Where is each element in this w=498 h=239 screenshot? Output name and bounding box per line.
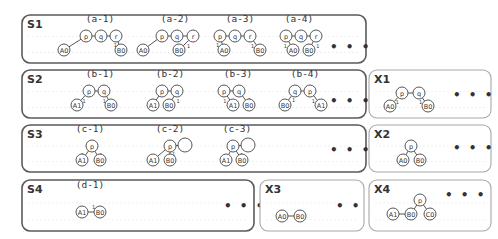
node-label: q [99, 33, 103, 41]
node-b0: B0 [303, 44, 315, 56]
node-p: p [304, 85, 316, 97]
node-label: A0 [386, 103, 395, 111]
graph-caption: (b-4) [291, 68, 320, 79]
node-a1: A1 [76, 154, 88, 166]
graph-caption: (b-1) [86, 68, 115, 79]
graph-caption: (a-1) [86, 13, 115, 24]
ellipsis-icon: • • • [330, 40, 371, 54]
node-a1: A1 [315, 99, 327, 111]
node-label: q [102, 88, 106, 96]
graph-caption: (c-2) [156, 123, 185, 134]
node-q: q [233, 85, 245, 97]
panel-label: X1 [374, 73, 390, 86]
node-p: p [214, 30, 226, 42]
node-b0: B0 [422, 100, 434, 112]
node-q: q [171, 30, 183, 42]
ellipsis-icon: • • • [330, 94, 371, 108]
node-label: r [192, 33, 195, 41]
node-a0: A0 [276, 210, 288, 222]
graph-caption: (d-1) [76, 179, 105, 190]
node-b0: B0 [236, 154, 248, 166]
node-b0: B0 [414, 154, 426, 166]
node-label: p [84, 33, 88, 41]
node-q: q [413, 87, 425, 99]
edge-weight-label: 1 [187, 43, 190, 49]
node-label: q [299, 33, 303, 41]
node-label: A0 [60, 47, 69, 55]
ellipsis-icon: • • • [330, 143, 371, 157]
node-label: B0 [96, 209, 105, 217]
node-label: B0 [107, 102, 116, 110]
node-q: q [229, 30, 241, 42]
node-q: q [98, 85, 110, 97]
node-b0: B0 [163, 99, 175, 111]
node-p: p [156, 85, 168, 97]
node-p: p [227, 140, 239, 152]
node-label: A1 [78, 157, 87, 165]
panel-label: X4 [374, 183, 390, 196]
node-label: B0 [117, 47, 126, 55]
node-a1: A1 [71, 99, 83, 111]
node-label: B0 [238, 157, 247, 165]
node-b0: B0 [115, 44, 127, 56]
panel-label: S2 [27, 73, 43, 86]
ellipsis-icon: • • • [453, 141, 494, 155]
node-label: B0 [296, 213, 305, 221]
panel-label: S3 [27, 128, 43, 141]
node-a1: A1 [147, 99, 159, 111]
node-b0: B0 [105, 99, 117, 111]
diagram-canvas: S1• • •(a-1)11pqrA0B0(a-2)11pqrA0B0(a-3)… [0, 0, 498, 239]
node-a1: A1 [220, 154, 232, 166]
node-a0: A0 [218, 44, 230, 56]
node-empty [241, 138, 255, 152]
node-a0: A0 [58, 44, 70, 56]
node-label: p [87, 88, 91, 96]
edge-weight-label: 1 [223, 98, 226, 104]
node-p: p [280, 30, 292, 42]
node-q: q [295, 30, 307, 42]
node-label: B0 [407, 211, 416, 219]
node-empty [178, 138, 192, 152]
node-p: p [218, 85, 230, 97]
node-label: A0 [399, 157, 408, 165]
node-label: p [160, 88, 164, 96]
node-a0: A0 [397, 154, 409, 166]
edge-weight-label: 1 [176, 98, 179, 104]
node-p: p [396, 87, 408, 99]
node-b0: B0 [405, 208, 417, 220]
panel-x2: X2• • •pA0B0 [369, 125, 494, 172]
node-label: p [90, 143, 94, 151]
node-p: p [405, 140, 417, 152]
node-circle [178, 138, 192, 152]
panel-x1: X1• • •11pqA0B0 [369, 70, 494, 118]
ellipsis-icon: • • • [224, 199, 265, 213]
node-c0: C0 [424, 208, 436, 220]
graph-caption: (a-3) [226, 13, 255, 24]
node-a0: A0 [384, 100, 396, 112]
graph-caption: (c-3) [223, 123, 252, 134]
node-label: A1 [78, 209, 87, 217]
node-a1: A1 [76, 206, 88, 218]
node-p: p [80, 30, 92, 42]
graph-caption: (b-3) [224, 68, 253, 79]
node-label: B0 [281, 102, 290, 110]
node-label: q [175, 33, 179, 41]
node-circle [241, 138, 255, 152]
node-label: B0 [245, 102, 254, 110]
node-label: B0 [416, 157, 425, 165]
node-label: r [315, 33, 318, 41]
panel-border [22, 180, 254, 231]
node-a0: A0 [287, 44, 299, 56]
node-label: A0 [220, 47, 229, 55]
node-a0: A0 [137, 44, 149, 56]
graph-caption: (a-4) [285, 13, 314, 24]
node-b0: B0 [279, 99, 291, 111]
node-q: q [171, 85, 183, 97]
node-q: q [95, 30, 107, 42]
node-label: q [417, 90, 421, 98]
node-label: B0 [165, 102, 174, 110]
node-label: r [249, 33, 252, 41]
node-r: r [244, 30, 256, 42]
node-label: B0 [175, 47, 184, 55]
panel-label: X2 [374, 128, 390, 141]
